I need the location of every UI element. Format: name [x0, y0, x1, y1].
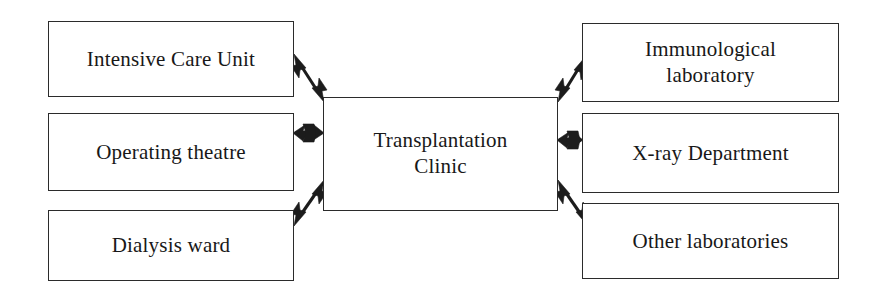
node-x-ray-department[interactable]: X-ray Department	[582, 113, 839, 193]
node-label-intensive-care-unit: Intensive Care Unit	[81, 47, 261, 71]
node-label-operating-theatre: Operating theatre	[90, 140, 252, 164]
diagram-canvas: Clinic : diagonal from (297,60) to (321,…	[0, 0, 882, 298]
node-label-transplantation-clinic: Transplantation Clinic	[367, 128, 513, 179]
node-other-laboratories[interactable]: Other laboratories	[582, 203, 839, 279]
node-dialysis-ward[interactable]: Dialysis ward	[48, 210, 294, 281]
node-intensive-care-unit[interactable]: Intensive Care Unit	[48, 21, 294, 97]
node-operating-theatre[interactable]: Operating theatre	[48, 113, 294, 191]
node-label-immunological-laboratory: Immunological laboratory	[639, 37, 782, 88]
edge-icu-clinic	[291, 54, 327, 102]
node-transplantation-clinic[interactable]: Transplantation Clinic	[323, 97, 558, 211]
edge-dialysis-clinic	[291, 180, 327, 226]
node-label-other-laboratories: Other laboratories	[627, 229, 795, 253]
edge-clinic-xray	[557, 131, 583, 149]
node-label-x-ray-department: X-ray Department	[626, 141, 795, 165]
node-label-dialysis-ward: Dialysis ward	[106, 233, 237, 257]
edge-ot-clinic	[293, 124, 324, 142]
node-immunological-laboratory[interactable]: Immunological laboratory	[582, 23, 839, 102]
